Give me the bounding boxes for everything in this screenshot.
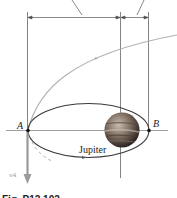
velocity-label: vA xyxy=(9,171,17,179)
point-a-label: A xyxy=(16,120,24,131)
dimension-line xyxy=(28,0,148,19)
jupiter-planet xyxy=(105,113,140,148)
point-b-marker xyxy=(147,129,151,133)
orbit-diagram: A B Jupiter vA Fig. P12.102 xyxy=(0,0,177,198)
ellipse-direction-arrow xyxy=(82,156,86,159)
point-a-marker xyxy=(26,129,30,133)
parabolic-trajectory xyxy=(28,35,177,130)
figure-caption: Fig. P12.102 xyxy=(2,194,60,198)
point-b-label: B xyxy=(153,118,159,129)
jupiter-label: Jupiter xyxy=(79,144,107,155)
